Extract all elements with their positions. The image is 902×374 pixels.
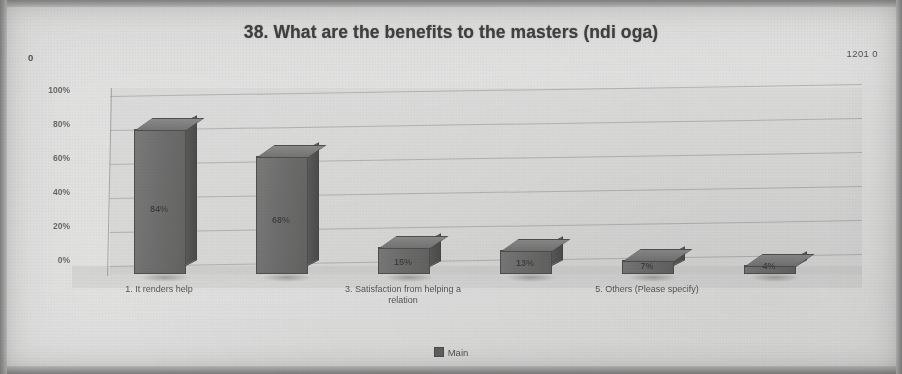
page-edge-left <box>0 0 7 374</box>
bar: 15% <box>378 249 428 275</box>
bar-shadow <box>506 273 556 282</box>
bar: 7% <box>622 262 672 274</box>
x-tick-label: 5. Others (Please specify) <box>582 284 712 295</box>
annotation-top-right: 1201 0 <box>847 48 878 59</box>
page-edge-top <box>0 0 902 7</box>
bar-shadow <box>262 273 312 282</box>
bar-shadow <box>384 273 434 282</box>
chart-back-wall <box>110 88 862 274</box>
plot-area: 100%80%60%40%20%0% 84%68%15%13%7%4% 1. I… <box>72 88 862 288</box>
annotation-top-left: 0 <box>28 52 33 63</box>
page-edge-bottom <box>0 366 902 374</box>
y-tick-label: 80% <box>18 119 70 129</box>
bar-value-label: 13% <box>500 258 550 268</box>
bar-shadow <box>628 273 678 282</box>
bar: 84% <box>134 131 184 274</box>
bar-value-label: 4% <box>744 261 794 271</box>
bar-value-label: 84% <box>134 204 184 214</box>
page-edge-right <box>896 0 902 374</box>
bar: 4% <box>744 267 794 274</box>
chart-legend: Main <box>0 347 902 358</box>
bar: 68% <box>256 158 306 274</box>
y-tick-label: 100% <box>18 85 70 95</box>
legend-swatch-main <box>434 347 444 357</box>
legend-label-main: Main <box>448 347 469 358</box>
x-tick-label: 1. It renders help <box>94 284 224 295</box>
bar-shadow <box>750 273 800 282</box>
y-tick-label: 60% <box>18 153 70 163</box>
chart-title: 38. What are the benefits to the masters… <box>0 22 902 43</box>
scanned-chart-page: 38. What are the benefits to the masters… <box>0 0 902 374</box>
bar-value-label: 15% <box>378 257 428 267</box>
bar: 13% <box>500 252 550 274</box>
x-tick-label: 3. Satisfaction from helping a relation <box>338 284 468 306</box>
y-tick-label: 20% <box>18 221 70 231</box>
bar-front-face <box>134 129 186 274</box>
y-tick-label: 0% <box>18 255 70 265</box>
bar-value-label: 68% <box>256 215 306 225</box>
bar-value-label: 7% <box>622 261 672 271</box>
bar-shadow <box>140 273 190 282</box>
y-tick-label: 40% <box>18 187 70 197</box>
